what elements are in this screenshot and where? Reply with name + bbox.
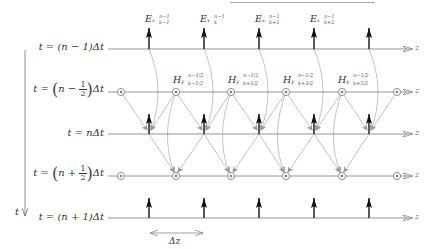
row-inner: n − bbox=[58, 83, 79, 94]
z-label-row-3: z bbox=[415, 128, 419, 137]
e-label-k-minus-1: Ex n−1 k−1 bbox=[145, 13, 155, 24]
z-label-row-1: z bbox=[415, 43, 419, 52]
dependency-lines bbox=[121, 49, 397, 172]
fraction-half: 12 bbox=[79, 81, 86, 98]
e-label-k: Ex n−1 k bbox=[200, 13, 210, 24]
row-label-n-minus-1: t = (n − 1)Δt bbox=[0, 41, 104, 52]
h-label-k-plus-3-halves: Hy n−1/2 k+3/2 bbox=[283, 74, 294, 85]
row-prefix: t = bbox=[33, 167, 52, 178]
h-label-k-plus-half: Hy n−1/2 k+1/2 bbox=[228, 74, 239, 85]
fraction-half: 12 bbox=[79, 165, 86, 182]
row-label-n-minus-half: t = (n − 12)Δt bbox=[0, 80, 104, 99]
row-label-n: t = nΔt bbox=[0, 127, 104, 138]
e-label-k-plus-2: Ex n−1 k+2 bbox=[310, 13, 320, 24]
row-suffix: Δt bbox=[93, 83, 104, 94]
e-label-k-plus-1: Ex n−1 k+1 bbox=[255, 13, 265, 24]
e-field-arrows bbox=[149, 28, 369, 218]
z-label-row-4: z bbox=[415, 170, 419, 179]
time-axis-label: t bbox=[15, 206, 19, 217]
row-suffix: Δt bbox=[93, 167, 104, 178]
delta-z-label: Δz bbox=[169, 236, 180, 246]
row-prefix: t = bbox=[33, 83, 52, 94]
row-label-n-plus-half: t = (n + 12)Δt bbox=[0, 164, 104, 183]
z-label-row-5: z bbox=[415, 212, 419, 221]
h-label-k-minus-half: Hy n−1/2 k−1/2 bbox=[173, 74, 184, 85]
row-inner: n + bbox=[58, 167, 79, 178]
z-label-row-2: z bbox=[415, 86, 419, 95]
h-label-k-plus-5-halves: Hy n−1/2 k+5/2 bbox=[338, 74, 349, 85]
